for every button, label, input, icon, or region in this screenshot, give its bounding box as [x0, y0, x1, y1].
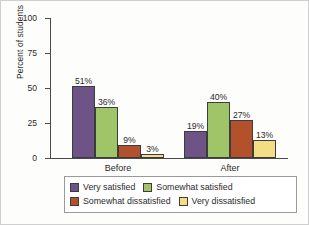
y-tick-label-25: 25 — [27, 118, 37, 128]
x-group-label-before: Before — [105, 163, 132, 173]
bar-value-label: 3% — [146, 144, 158, 154]
bar-value-label: 40% — [210, 92, 227, 102]
bar-before-very-satisfied: 51% — [72, 86, 95, 158]
bar-after-somewhat-satisfied: 40% — [207, 102, 230, 158]
legend-row-2: Somewhat dissatisfied Very dissatisfied — [70, 194, 291, 208]
bar-value-label: 51% — [75, 76, 92, 86]
plot-area: 100 75 50 25 0 51% 36% 9% 3% Before 19% — [50, 18, 288, 159]
bar-value-label: 36% — [98, 97, 115, 107]
y-tick-label-0: 0 — [32, 153, 37, 163]
bar-after-very-dissatisfied: 13% — [253, 140, 276, 158]
legend-item-somewhat-dissatisfied[interactable]: Somewhat dissatisfied — [70, 197, 171, 206]
legend-row-1: Very satisfied Somewhat satisfied — [70, 180, 291, 194]
y-axis-line — [50, 18, 51, 159]
y-tick-75: 75 — [45, 53, 50, 54]
legend-swatch-purple-icon — [70, 183, 79, 192]
y-tick-0: 0 — [45, 158, 50, 159]
legend-swatch-red-icon — [70, 197, 79, 206]
bar-after-very-satisfied: 19% — [184, 131, 207, 158]
y-tick-50: 50 — [45, 88, 50, 89]
x-axis-line — [45, 158, 288, 159]
legend-label: Very satisfied — [83, 183, 135, 192]
bar-after-somewhat-dissatisfied: 27% — [230, 120, 253, 158]
y-tick-label-50: 50 — [27, 83, 37, 93]
legend: Very satisfied Somewhat satisfied Somewh… — [64, 176, 297, 213]
legend-item-very-satisfied[interactable]: Very satisfied — [70, 183, 135, 192]
bar-before-somewhat-satisfied: 36% — [95, 107, 118, 158]
legend-swatch-yellow-icon — [179, 197, 188, 206]
legend-swatch-green-icon — [143, 183, 152, 192]
bar-before-very-dissatisfied: 3% — [141, 154, 164, 158]
y-tick-100: 100 — [45, 18, 50, 19]
y-tick-25: 25 — [45, 123, 50, 124]
legend-label: Very dissatisfied — [192, 197, 256, 206]
bar-value-label: 19% — [187, 121, 204, 131]
legend-label: Somewhat satisfied — [156, 183, 232, 192]
x-group-label-after: After — [220, 163, 239, 173]
y-tick-label-75: 75 — [27, 48, 37, 58]
legend-item-somewhat-satisfied[interactable]: Somewhat satisfied — [143, 183, 232, 192]
bar-before-somewhat-dissatisfied: 9% — [118, 145, 141, 158]
bar-value-label: 27% — [233, 110, 250, 120]
bar-value-label: 9% — [123, 135, 135, 145]
legend-item-very-dissatisfied[interactable]: Very dissatisfied — [179, 197, 256, 206]
bar-value-label: 13% — [256, 130, 273, 140]
legend-label: Somewhat dissatisfied — [83, 197, 171, 206]
bar-chart-figure: Percent of students 100 75 50 25 0 51% 3… — [0, 0, 309, 225]
y-tick-label-100: 100 — [23, 13, 37, 23]
